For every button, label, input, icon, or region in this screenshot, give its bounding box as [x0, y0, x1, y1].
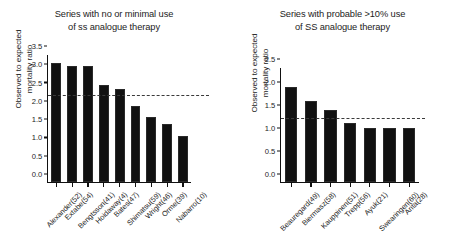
y-axis-label-right: Observed to expected mortality ratio — [250, 11, 272, 136]
y-tick-left-2: 1.0 — [32, 133, 47, 142]
bar-slot — [159, 55, 175, 182]
x-label-slot: Swearingen(60) — [379, 183, 399, 243]
bar-right-4 — [364, 128, 376, 182]
y-tick-mark — [44, 173, 47, 174]
bar-slot — [48, 55, 64, 182]
bar-slot — [281, 68, 301, 182]
y-tick-left-0: 0.0 — [32, 170, 47, 179]
bar-right-2 — [324, 110, 336, 182]
y-tick-left-1: 0.5 — [32, 151, 47, 160]
x-label-slot: Shimatsu(59) — [127, 183, 143, 243]
y-tick-right-3: 1.5 — [265, 101, 280, 110]
y-tick-left-3: 1.5 — [32, 115, 47, 124]
x-label-slot: Beauregard(49) — [280, 183, 300, 243]
two-panel-bar-figure: Series with no or minimal use of ss anal… — [0, 0, 457, 244]
bar-left-2 — [83, 66, 93, 181]
y-tick-mark — [44, 155, 47, 156]
plot-area-left: Alexander(52)Extabe(54)Bengtsson(41)Hoid… — [47, 55, 191, 183]
y-tick-left-6: 3.0 — [32, 60, 47, 69]
bar-right-6 — [403, 128, 415, 182]
bar-left-7 — [162, 124, 172, 181]
x-label-slot: Bengtsson(41) — [79, 183, 95, 243]
bar-slot — [175, 55, 191, 182]
x-label-slot: Wright(46) — [143, 183, 159, 243]
x-label-slot: Trepp(56) — [340, 183, 360, 243]
x-label-slot: Hoidaway(4) — [95, 183, 111, 243]
y-tick-label: 1.5 — [32, 115, 44, 124]
y-tick-label: 1.0 — [265, 124, 277, 133]
bar-slot — [80, 55, 96, 182]
x-label-slot: Kauppinen(51) — [320, 183, 340, 243]
y-tick-mark — [277, 58, 280, 59]
y-tick-mark — [44, 82, 47, 83]
bar-slot — [301, 68, 321, 182]
bar-left-8 — [178, 136, 188, 182]
plot-area-right: Beauregard(49)Biermasz(58)Kauppinen(51)T… — [280, 68, 419, 183]
bar-left-0 — [51, 63, 61, 182]
chart-panel-left: Series with no or minimal use of ss anal… — [0, 0, 228, 244]
y-tick-right-2: 1.0 — [265, 124, 280, 133]
x-axis-labels-right: Beauregard(49)Biermasz(58)Kauppinen(51)T… — [280, 183, 419, 243]
bar-slot — [340, 68, 360, 182]
bar-slot — [143, 55, 159, 182]
y-tick-mark — [277, 104, 280, 105]
y-tick-label: 1.0 — [32, 133, 44, 142]
y-tick-label: 2.0 — [265, 78, 277, 87]
bar-slot — [96, 55, 112, 182]
x-axis-tick-label: Nabarro(10) — [174, 190, 209, 225]
y-tick-left-5: 2.5 — [32, 78, 47, 87]
bar-left-5 — [131, 106, 141, 181]
bar-left-3 — [99, 85, 109, 182]
y-tick-mark — [277, 150, 280, 151]
x-label-slot: Bates(47) — [111, 183, 127, 243]
y-tick-mark — [277, 81, 280, 82]
x-label-slot: Extabe(54) — [63, 183, 79, 243]
y-tick-label: 2.5 — [265, 55, 277, 64]
bar-slot — [112, 55, 128, 182]
y-tick-left-4: 2.0 — [32, 96, 47, 105]
x-label-slot: Nabarro(10) — [175, 183, 191, 243]
y-tick-label: 0.5 — [265, 147, 277, 156]
y-tick-mark — [277, 173, 280, 174]
y-tick-label: 3.5 — [32, 42, 44, 51]
bar-left-1 — [67, 66, 77, 181]
y-tick-right-0: 0.0 — [265, 170, 280, 179]
y-tick-label: 2.5 — [32, 78, 44, 87]
reference-line-right — [281, 118, 425, 119]
y-tick-mark — [44, 45, 47, 46]
bar-group-left — [48, 55, 191, 182]
y-tick-label: 0.0 — [265, 170, 277, 179]
y-tick-mark — [44, 100, 47, 101]
y-tick-right-4: 2.0 — [265, 78, 280, 87]
chart-panel-right: Series with probable >10% use of SS anal… — [228, 0, 457, 244]
bar-right-1 — [305, 101, 317, 182]
y-tick-mark — [44, 64, 47, 65]
x-label-slot: Biermasz(58) — [300, 183, 320, 243]
y-tick-left-7: 3.5 — [32, 42, 47, 51]
y-tick-right-5: 2.5 — [265, 55, 280, 64]
reference-line-left — [48, 95, 209, 96]
y-tick-label: 0.0 — [32, 170, 44, 179]
y-tick-mark — [277, 127, 280, 128]
y-axis-label-left: Observed to expected mortality ratio — [14, 7, 36, 132]
y-tick-label: 3.0 — [32, 60, 44, 69]
y-tick-right-1: 0.5 — [265, 147, 280, 156]
y-tick-label: 0.5 — [32, 151, 44, 160]
y-tick-label: 2.0 — [32, 96, 44, 105]
bar-slot — [64, 55, 80, 182]
y-tick-mark — [44, 119, 47, 120]
bar-slot — [128, 55, 144, 182]
x-label-slot: Ayuk(21) — [359, 183, 379, 243]
x-axis-labels-left: Alexander(52)Extabe(54)Bengtsson(41)Hoid… — [47, 183, 191, 243]
bar-slot — [360, 68, 380, 182]
bar-right-3 — [344, 123, 356, 182]
bar-slot — [399, 68, 419, 182]
bar-right-0 — [285, 87, 297, 182]
bar-group-right — [281, 68, 419, 182]
y-tick-mark — [44, 137, 47, 138]
bar-slot — [380, 68, 400, 182]
x-label-slot: Orme(39) — [159, 183, 175, 243]
bar-right-5 — [383, 128, 395, 182]
x-axis-tick-label: Arita(28) — [403, 190, 429, 216]
panel-title-left: Series with no or minimal use of ss anal… — [8, 8, 220, 33]
